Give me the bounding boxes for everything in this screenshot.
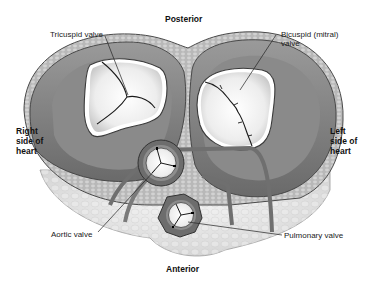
label-bicuspid-line2: valve <box>281 39 338 48</box>
label-right-line1: Right <box>16 126 43 136</box>
label-anterior: Anterior <box>166 264 199 274</box>
label-bicuspid-mitral-valve: Bicuspid (mitral) valve <box>281 30 338 48</box>
label-pulmonary-valve: Pulmonary valve <box>284 231 343 240</box>
label-left-line1: Left <box>330 126 357 136</box>
ventricular-walls <box>24 32 343 205</box>
label-aortic-valve: Aortic valve <box>51 230 92 239</box>
aortic-valve <box>138 140 184 186</box>
label-left-side-of-heart: Left side of heart <box>330 126 357 156</box>
heart-valves-diagram: Posterior Anterior Tricuspid valve Bicus… <box>0 0 374 281</box>
label-right-side-of-heart: Right side of heart <box>16 126 43 156</box>
label-tricuspid-valve: Tricuspid valve <box>50 30 103 39</box>
label-right-line2: side of <box>16 136 43 146</box>
label-bicuspid-line1: Bicuspid (mitral) <box>281 30 338 39</box>
label-posterior: Posterior <box>165 14 202 24</box>
label-left-line3: heart <box>330 146 357 156</box>
label-right-line3: heart <box>16 146 43 156</box>
bicuspid-mitral-valve <box>197 68 275 150</box>
label-left-line2: side of <box>330 136 357 146</box>
